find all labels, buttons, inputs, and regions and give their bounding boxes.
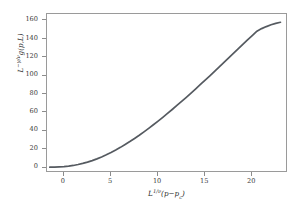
x-tick-mark [63,172,64,176]
y-tick-mark [42,56,46,57]
y-tick-mark [42,167,46,168]
x-tick-mark [204,172,205,176]
x-tick-label: 0 [48,178,78,185]
x-tick-mark [110,172,111,176]
y-tick-mark [42,38,46,39]
y-tick-mark [42,19,46,20]
y-tick-label: 0 [8,163,38,170]
data-curve [50,22,281,167]
x-tick-mark [251,172,252,176]
y-tick-label: 40 [8,126,38,133]
y-tick-mark [42,130,46,131]
x-axis-label: L1/ν(p−pc) [46,188,287,200]
x-tick-mark [157,172,158,176]
y-tick-mark [42,93,46,94]
y-tick-label: 20 [8,145,38,152]
x-tick-label: 20 [236,178,266,185]
y-tick-mark [42,75,46,76]
plot-area [46,13,287,172]
y-tick-mark [42,111,46,112]
y-axis-label-wrapper: L−γ/νg(p,L) [15,0,29,113]
x-tick-label: 15 [189,178,219,185]
x-tick-label: 10 [142,178,172,185]
y-axis-label: L−γ/νg(p,L) [15,0,25,113]
scaling-collapse-chart: 020406080100120140160 05101520 L1/ν(p−pc… [0,0,301,206]
y-tick-mark [42,148,46,149]
curve-svg [47,14,288,173]
x-tick-label: 5 [95,178,125,185]
